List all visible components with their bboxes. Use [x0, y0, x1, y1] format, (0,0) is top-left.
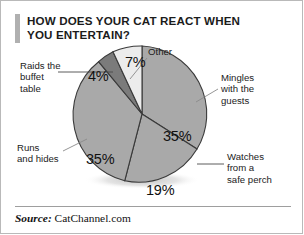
title-accent-bar [15, 14, 20, 43]
slice-label-watches: Watches from a safe perch [227, 151, 272, 185]
slice-label-raids-the-buffet-table: Raids the buffet table [20, 60, 61, 94]
source-value: CatChannel.com [55, 212, 131, 224]
slice-value-other: 7% [125, 54, 146, 70]
page-title-text: HOW DOES YOUR CAT REACT WHEN YOU ENTERTA… [27, 14, 240, 43]
source-label: Source: [15, 212, 52, 224]
page-title: HOW DOES YOUR CAT REACT WHEN YOU ENTERTA… [15, 14, 245, 43]
slice-value-runs-and-hides: 35% [86, 151, 114, 167]
slice-label-other: Other [148, 46, 172, 57]
slice-label-mingles: Mingles with the guests [221, 72, 254, 106]
slice-label-runs-and-hides: Runs and hides [17, 142, 59, 165]
slice-value-watches: 19% [146, 182, 174, 198]
source-credit: Source: CatChannel.com [15, 212, 131, 224]
slice-value-raids-the-buffet-table: 4% [88, 68, 109, 84]
pie-chart: 35% 19% 35% 4% 7% Other Raids the buffet… [1, 41, 304, 206]
slice-value-mingles: 35% [163, 128, 191, 144]
chart-frame: HOW DOES YOUR CAT REACT WHEN YOU ENTERTA… [0, 0, 303, 234]
footer-divider [15, 206, 291, 207]
